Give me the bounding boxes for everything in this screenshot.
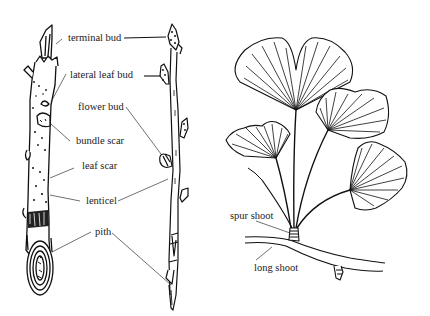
diagram-drawing — [0, 0, 430, 316]
diagram-canvas: terminal bud lateral leaf bud flower bud… — [0, 0, 430, 316]
ginkgo-illustration — [226, 38, 407, 280]
label-lateral-leaf-bud: lateral leaf bud — [70, 70, 133, 81]
right-twig — [160, 24, 188, 310]
leader-lines-ginkgo — [256, 221, 290, 260]
left-twig — [23, 25, 58, 295]
label-long-shoot: long shoot — [254, 263, 298, 274]
label-bundle-scar: bundle scar — [76, 136, 124, 147]
label-leaf-scar: leaf scar — [82, 161, 117, 172]
label-lenticel: lenticel — [86, 196, 117, 207]
label-terminal-bud: terminal bud — [68, 33, 121, 44]
label-pith: pith — [95, 227, 111, 238]
label-spur-shoot: spur shoot — [230, 211, 273, 222]
label-flower-bud: flower bud — [78, 102, 124, 113]
